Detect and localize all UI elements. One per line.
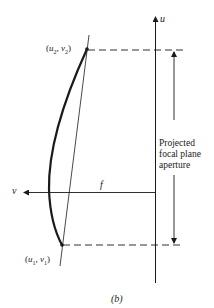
figure-caption: (b) xyxy=(111,294,123,304)
point-top-label: (u2, v2) xyxy=(46,44,71,55)
aperture-note-line-1: Projected xyxy=(159,138,214,149)
u-axis-label: u xyxy=(160,14,165,24)
focal-length-label: f xyxy=(100,180,103,190)
curved-surface xyxy=(49,49,87,245)
v-axis-label: v xyxy=(12,186,16,196)
aperture-note-line-3: aperture xyxy=(159,160,214,171)
chord-line xyxy=(60,35,89,266)
diagram-canvas: u v f (u2, v2) (u1, v1) Projected focal … xyxy=(0,0,214,308)
aperture-note: Projected focal plane aperture xyxy=(159,138,214,171)
point-top-marker xyxy=(85,47,89,51)
point-bottom-label: (u1, v1) xyxy=(25,255,50,266)
paren-close: ) xyxy=(47,254,50,264)
aperture-note-line-2: focal plane xyxy=(159,149,214,160)
point-bottom-marker xyxy=(60,243,64,247)
paren-close: ) xyxy=(68,43,71,53)
